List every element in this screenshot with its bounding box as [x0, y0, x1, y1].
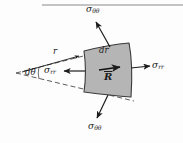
dr-label: dr — [99, 46, 109, 55]
d-theta-arc — [38, 67, 39, 79]
sigma-rr-left-label: σrr — [44, 66, 56, 75]
sigma-theta-theta-top-arrow — [96, 22, 110, 47]
d-theta-label: dθ — [25, 68, 36, 77]
sigma-rr-right-label: σrr — [152, 61, 164, 70]
sigma-theta-theta-bottom-arrow — [97, 95, 108, 118]
sigma-theta-theta-top-label: σθθ — [86, 5, 99, 14]
radius-r-label: r — [53, 47, 57, 56]
sigma-rr-right-arrow — [131, 66, 150, 68]
polar-stress-element-figure: σθθ σθθ σrr σrr r dθ dr R — [0, 0, 183, 143]
sigma-theta-theta-bottom-label: σθθ — [88, 122, 101, 131]
R-vector-label: R — [104, 71, 112, 82]
